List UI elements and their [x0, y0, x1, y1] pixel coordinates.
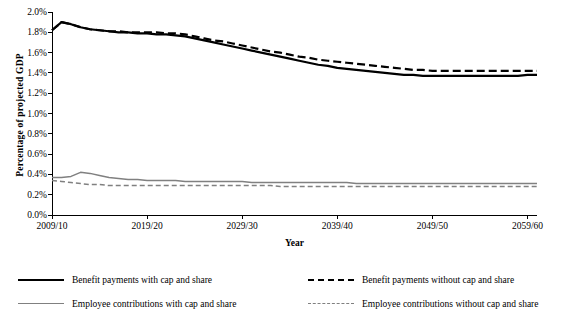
series-line-1 — [52, 22, 537, 71]
plot-area: 0.0%0.2%0.4%0.6%0.8%1.0%1.2%1.4%1.6%1.8%… — [52, 12, 537, 215]
x-axis-title: Year — [52, 238, 537, 248]
x-tick-label: 2029/30 — [227, 221, 258, 231]
y-tick-label: 1.6% — [27, 48, 47, 58]
y-tick-label: 1.8% — [27, 27, 47, 37]
legend-label-2: Employee contributions with cap and shar… — [72, 299, 236, 309]
y-tick-label: 0.4% — [27, 169, 47, 179]
x-tick-label: 2039/40 — [322, 221, 353, 231]
legend-item-2: Employee contributions with cap and shar… — [18, 296, 236, 310]
x-tick-label: 2049/50 — [417, 221, 448, 231]
x-tick-label: 2009/10 — [36, 221, 67, 231]
y-tick-label: 0.8% — [27, 129, 47, 139]
chart-container: Percentage of projected GDP 0.0%0.2%0.4%… — [0, 0, 572, 329]
legend-label-3: Employee contributions without cap and s… — [362, 299, 539, 309]
legend-key-dashed-thin-gray — [308, 299, 354, 309]
x-tick-label: 2059/60 — [512, 221, 543, 231]
y-tick-label: 0.2% — [27, 190, 47, 200]
legend-label-1: Benefit payments without cap and share — [362, 275, 514, 285]
y-tick-label: 1.4% — [27, 68, 47, 78]
x-tick-label: 2019/20 — [132, 221, 163, 231]
legend-item-3: Employee contributions without cap and s… — [308, 296, 539, 310]
y-tick-label: 2.0% — [27, 7, 47, 17]
y-tick-label: 0.6% — [27, 149, 47, 159]
legend-item-0: Benefit payments with cap and share — [18, 272, 212, 286]
y-axis-title-wrap: Percentage of projected GDP — [4, 10, 20, 220]
chart-legend: Benefit payments with cap and share Bene… — [18, 272, 558, 316]
legend-key-solid-thin-gray — [18, 299, 64, 309]
legend-key-dashed-thick-black — [308, 275, 354, 285]
y-tick-label: 1.2% — [27, 88, 47, 98]
y-tick-label: 1.0% — [27, 109, 47, 119]
legend-label-0: Benefit payments with cap and share — [72, 275, 212, 285]
y-tick-label: 0.0% — [27, 210, 47, 220]
series-line-0 — [52, 22, 537, 76]
chart-svg — [52, 12, 537, 215]
legend-key-solid-thick-black — [18, 275, 64, 285]
series-line-2 — [52, 172, 537, 183]
legend-item-1: Benefit payments without cap and share — [308, 272, 514, 286]
